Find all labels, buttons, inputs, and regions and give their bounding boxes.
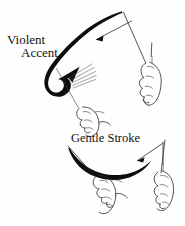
brush-stroke-figure: Violent Accent Gentle Stroke [0,0,185,226]
violent-accent-direction-arrow [96,21,132,42]
label-gentle-stroke: Gentle Stroke [71,132,140,145]
hand-lower-left [93,175,127,214]
label-violent-accent: Violent Accent [7,33,58,60]
label-violent-accent-line2: Accent [7,46,58,59]
gentle-stroke-guide-line-left [68,146,95,177]
gentle-stroke-sweep [68,148,151,180]
violent-accent-guide-line-right [124,13,146,63]
panel-gentle-stroke [68,140,174,214]
hand-upper-right [139,43,161,105]
panel-violent-accent [44,11,161,136]
gentle-stroke-direction-arrow [137,144,163,163]
